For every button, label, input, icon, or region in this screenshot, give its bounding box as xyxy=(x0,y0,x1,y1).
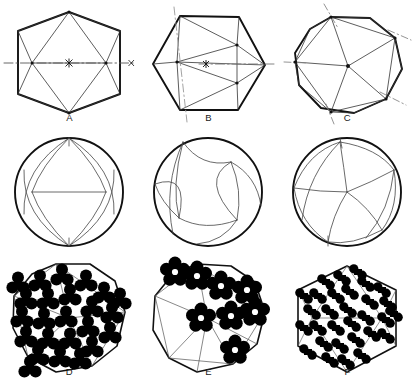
projection-1-boundaries xyxy=(24,138,114,246)
projection-2-boundaries xyxy=(155,142,261,244)
panel-f xyxy=(278,256,417,384)
figure-plate: A xyxy=(0,0,417,384)
panel-d-capsomers xyxy=(6,264,131,378)
panel-c xyxy=(278,0,417,128)
panel-b-label: B xyxy=(139,112,278,123)
projection-two-fold xyxy=(0,128,139,256)
panel-a-label: A xyxy=(0,112,139,123)
panel-d xyxy=(0,256,139,384)
panel-d-label: D xyxy=(0,366,139,377)
panel-c-label: C xyxy=(278,112,417,123)
panel-a xyxy=(0,0,139,128)
panel-f-label: F xyxy=(278,366,417,377)
projection-five-fold xyxy=(278,128,417,256)
panel-b-facet-edges xyxy=(153,16,265,110)
panel-e-label: E xyxy=(139,366,278,377)
projection-three-fold xyxy=(139,128,278,256)
panel-b xyxy=(139,0,278,128)
panel-e xyxy=(139,256,278,384)
